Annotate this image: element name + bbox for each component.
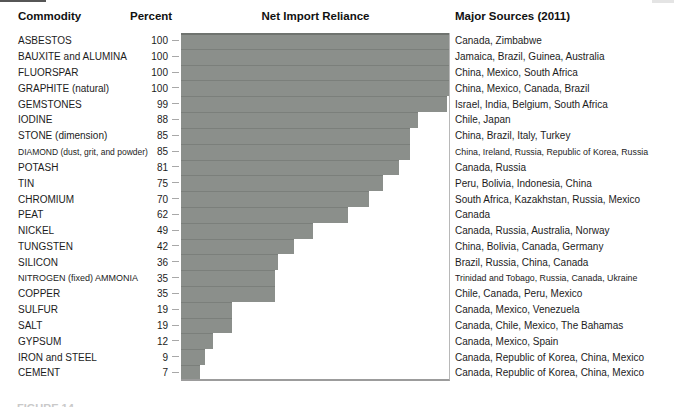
major-sources-value: Canada, Zimbabwe — [450, 35, 674, 46]
percent-value: 81 — [130, 162, 168, 173]
tick-mark — [172, 87, 179, 88]
commodity-label: POTASH — [0, 162, 130, 173]
commodity-label: NITROGEN (fixed) AMMONIA — [0, 273, 130, 283]
major-sources-value: Peru, Bolivia, Indonesia, China — [450, 178, 674, 189]
commodity-label: CEMENT — [0, 367, 130, 378]
bar-track — [181, 144, 450, 160]
percent-value: 7 — [130, 367, 168, 378]
reliance-bar — [181, 223, 313, 239]
percent-value: 88 — [130, 114, 168, 125]
axis-tick-zone — [168, 239, 181, 255]
major-sources-value: Chile, Japan — [450, 114, 674, 125]
axis-tick-zone — [168, 191, 181, 207]
major-sources-value: Canada — [450, 209, 674, 220]
major-sources-value: Chile, Canada, Peru, Mexico — [450, 288, 674, 299]
tick-mark — [172, 325, 179, 326]
axis-tick-zone — [168, 254, 181, 270]
reliance-bar — [181, 128, 410, 144]
chart-row: NICKEL49Canada, Russia, Australia, Norwa… — [0, 223, 674, 239]
major-sources-value: China, Brazil, Italy, Turkey — [450, 130, 674, 141]
chart-row: PEAT62Canada — [0, 207, 674, 223]
reliance-bar — [181, 80, 450, 96]
chart-row: FLUORSPAR100China, Mexico, South Africa — [0, 65, 674, 81]
major-sources-value: Canada, Mexico, Venezuela — [450, 304, 674, 315]
major-sources-value: China, Mexico, Canada, Brazil — [450, 83, 674, 94]
tick-mark — [172, 293, 179, 294]
bar-track — [181, 270, 450, 286]
major-sources-value: China, Ireland, Russia, Republic of Kore… — [450, 147, 674, 157]
commodity-label: BAUXITE and ALUMINA — [0, 51, 130, 62]
bar-track — [181, 254, 450, 270]
commodity-label: GEMSTONES — [0, 99, 130, 110]
tick-mark — [172, 56, 179, 57]
chart-row: TIN75Peru, Bolivia, Indonesia, China — [0, 175, 674, 191]
bar-track — [181, 223, 450, 239]
percent-value: 70 — [130, 194, 168, 205]
tick-mark — [172, 119, 179, 120]
chart-row: POTASH81Canada, Russia — [0, 160, 674, 176]
clipped-figure-caption: FIGURE 14 — [17, 399, 657, 407]
major-sources-value: Jamaica, Brazil, Guinea, Australia — [450, 51, 674, 62]
reliance-bar — [181, 239, 294, 255]
percent-value: 100 — [130, 51, 168, 62]
chart-row: COPPER35Chile, Canada, Peru, Mexico — [0, 286, 674, 302]
bar-track — [181, 49, 450, 65]
axis-tick-zone — [168, 207, 181, 223]
axis-tick-zone — [168, 333, 181, 349]
percent-value: 100 — [130, 67, 168, 78]
percent-value: 35 — [130, 273, 168, 284]
major-sources-value: Canada, Republic of Korea, China, Mexico — [450, 367, 674, 378]
chart-row: SULFUR19Canada, Mexico, Venezuela — [0, 302, 674, 318]
major-sources-column-header: Major Sources (2011) — [455, 10, 570, 22]
bar-track — [181, 175, 450, 191]
commodity-label: STONE (dimension) — [0, 130, 130, 141]
tick-mark — [172, 151, 179, 152]
reliance-bar — [181, 112, 418, 128]
percent-value: 42 — [130, 241, 168, 252]
axis-tick-zone — [168, 96, 181, 112]
tick-mark — [172, 340, 179, 341]
chart-row: ASBESTOS100Canada, Zimbabwe — [0, 33, 674, 49]
chart-row: STONE (dimension)85China, Brazil, Italy,… — [0, 128, 674, 144]
tick-mark — [172, 198, 179, 199]
cropped-top-edge-artifact — [0, 0, 46, 2]
bar-track — [181, 191, 450, 207]
axis-tick-zone — [168, 223, 181, 239]
chart-row: SILICON36Brazil, Russia, China, Canada — [0, 254, 674, 270]
axis-tick-zone — [168, 144, 181, 160]
reliance-bar — [181, 333, 213, 349]
cropped-top-right-artifact — [652, 0, 674, 3]
percent-value: 19 — [130, 304, 168, 315]
percent-value: 9 — [130, 352, 168, 363]
chart-row: DIAMOND (dust, grit, and powder)85China,… — [0, 144, 674, 160]
percent-column-header: Percent — [130, 10, 169, 22]
chart-row: IRON and STEEL9Canada, Republic of Korea… — [0, 349, 674, 365]
major-sources-value: China, Bolivia, Canada, Germany — [450, 241, 674, 252]
commodity-label: SALT — [0, 320, 130, 331]
axis-tick-zone — [168, 33, 181, 49]
reliance-bar — [181, 65, 450, 81]
tick-mark — [172, 182, 179, 183]
bar-track — [181, 96, 450, 112]
axis-tick-zone — [168, 286, 181, 302]
bar-track — [181, 333, 450, 349]
reliance-bar — [181, 160, 399, 176]
axis-tick-zone — [168, 160, 181, 176]
commodity-label: SILICON — [0, 257, 130, 268]
major-sources-value: South Africa, Kazakhstan, Russia, Mexico — [450, 194, 674, 205]
bar-track — [181, 112, 450, 128]
major-sources-value: China, Mexico, South Africa — [450, 67, 674, 78]
tick-mark — [172, 277, 179, 278]
net-import-reliance-chart: Commodity Percent Net Import Reliance Ma… — [0, 0, 674, 407]
axis-tick-zone — [168, 365, 181, 381]
commodity-label: NICKEL — [0, 225, 130, 236]
tick-mark — [172, 356, 179, 357]
axis-tick-zone — [168, 318, 181, 334]
bar-track — [181, 80, 450, 96]
reliance-bar — [181, 254, 278, 270]
axis-tick-zone — [168, 112, 181, 128]
tick-mark — [172, 245, 179, 246]
percent-value: 85 — [130, 130, 168, 141]
axis-tick-zone — [168, 349, 181, 365]
bar-track — [181, 160, 450, 176]
